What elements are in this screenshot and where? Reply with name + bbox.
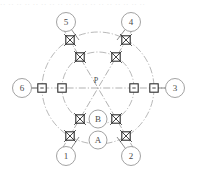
label-b: B bbox=[89, 110, 107, 128]
node-2-label: 2 bbox=[129, 151, 134, 161]
node-3-label: 3 bbox=[173, 83, 178, 93]
outer-marker-300-hatched-marker bbox=[120, 130, 132, 142]
node-leader-lines-group bbox=[32, 29, 166, 148]
figure-root: ·· ·· ·· ·· ·· ·· ·· ·· ·· ·· ·· ·· ·· ·… bbox=[0, 0, 197, 174]
inner-marker-0-plain-marker bbox=[130, 84, 138, 92]
inner-marker-120-hatched-marker bbox=[74, 51, 86, 63]
label-a: A bbox=[89, 131, 107, 149]
diagram-canvas: BA 123456 P bbox=[0, 0, 197, 174]
node-3[interactable]: 3 bbox=[166, 79, 185, 98]
node-2[interactable]: 2 bbox=[122, 147, 141, 166]
inner-marker-180-plain-marker bbox=[58, 84, 66, 92]
outer-marker-120-hatched-marker bbox=[64, 34, 76, 46]
outer-marker-180-plain-marker bbox=[38, 84, 46, 92]
inner-marker-60-hatched-marker bbox=[110, 51, 122, 63]
node-6[interactable]: 6 bbox=[13, 79, 32, 98]
node-1-label: 1 bbox=[64, 151, 69, 161]
outer-marker-0-plain-marker bbox=[150, 84, 158, 92]
inner-marker-300-hatched-marker bbox=[110, 113, 122, 125]
node-4[interactable]: 4 bbox=[122, 13, 141, 32]
node-6-label: 6 bbox=[20, 83, 25, 93]
node-5[interactable]: 5 bbox=[57, 13, 76, 32]
label-a-text: A bbox=[95, 135, 102, 145]
node-4-label: 4 bbox=[129, 17, 134, 27]
outer-marker-60-hatched-marker bbox=[120, 34, 132, 46]
center-point-label: P bbox=[94, 76, 99, 85]
inner-marker-240-hatched-marker bbox=[74, 113, 86, 125]
node-5-label: 5 bbox=[64, 17, 69, 27]
node-1[interactable]: 1 bbox=[57, 147, 76, 166]
point-labels-group: BA bbox=[89, 110, 107, 149]
label-b-text: B bbox=[95, 114, 101, 124]
outer-marker-240-hatched-marker bbox=[64, 130, 76, 142]
